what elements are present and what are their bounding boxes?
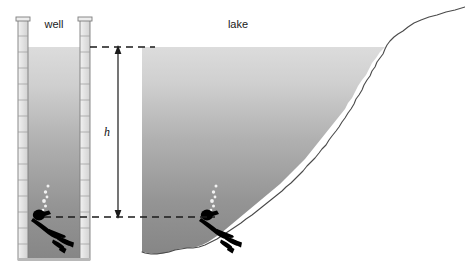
well-right-wall — [78, 17, 92, 260]
well-bottom — [18, 258, 90, 261]
height-label: h — [104, 125, 110, 139]
well-water — [28, 47, 80, 260]
well-label: well — [44, 18, 64, 30]
physics-diagram-well-lake: h well lake — [0, 0, 465, 267]
well-structure — [16, 17, 92, 261]
lake-water — [142, 47, 385, 254]
well-left-wall — [16, 17, 30, 260]
lake-label: lake — [228, 18, 248, 30]
